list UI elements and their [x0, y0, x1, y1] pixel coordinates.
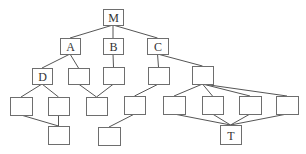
edge-c1a-c1b	[109, 114, 135, 127]
edge-c1-c1a	[135, 84, 159, 96]
edge-D-d1	[21, 84, 42, 97]
node-dd	[49, 127, 70, 145]
node-label: D	[38, 70, 47, 84]
node-d: D	[33, 69, 53, 85]
node-box	[277, 97, 299, 115]
node-box	[125, 97, 146, 115]
edge-a2-ab	[79, 84, 97, 97]
node-c2c	[240, 97, 262, 115]
edge-B-b1	[113, 54, 114, 67]
edge-M-C	[113, 25, 158, 38]
node-label: C	[154, 40, 162, 54]
node-m: M	[104, 10, 124, 26]
node-c1	[149, 68, 170, 85]
node-box	[11, 98, 33, 116]
node-box	[87, 98, 108, 116]
node-ab	[87, 98, 108, 116]
edge-C-c1	[158, 54, 159, 67]
node-d1	[11, 98, 33, 116]
edge-M-A	[70, 25, 113, 38]
edge-b1-ab	[97, 84, 114, 97]
node-b: B	[104, 39, 124, 55]
edge-d1-dd	[21, 115, 59, 126]
node-box	[49, 98, 70, 116]
diagram-canvas: MABCDT	[0, 0, 306, 154]
node-label: A	[66, 40, 75, 54]
node-a2	[69, 69, 90, 85]
node-a: A	[61, 39, 81, 55]
edge-C-c2	[158, 54, 203, 66]
edge-c2-c2a	[174, 84, 203, 96]
node-label: M	[108, 11, 119, 25]
node-box	[69, 69, 90, 85]
node-c1b	[99, 128, 121, 146]
node-label: T	[227, 129, 235, 143]
node-c2b	[203, 97, 224, 115]
node-box	[203, 97, 224, 115]
node-box	[149, 68, 170, 85]
node-c2	[193, 67, 214, 85]
node-d2	[49, 98, 70, 116]
node-c2a	[164, 97, 186, 115]
node-box	[49, 127, 70, 145]
edge-D-d2	[42, 84, 59, 97]
node-box	[193, 67, 214, 85]
node-box	[240, 97, 262, 115]
node-box	[104, 68, 125, 85]
node-c2d	[277, 97, 299, 115]
edge-c2d-T	[231, 114, 288, 125]
node-b1	[104, 68, 125, 85]
edge-A-D	[42, 54, 70, 68]
node-box	[99, 128, 121, 146]
edge-A-a2	[70, 54, 79, 68]
node-c1a	[125, 97, 146, 115]
node-box	[164, 97, 186, 115]
node-c: C	[148, 39, 169, 55]
node-label: B	[109, 40, 117, 54]
node-t: T	[221, 126, 242, 145]
